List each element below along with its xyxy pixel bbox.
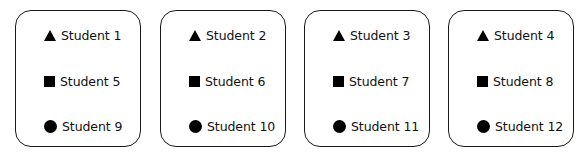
student-label: Student 4 (494, 28, 554, 43)
student-item: Student 9 (44, 118, 122, 134)
student-group-4: Student 4 Student 8 Student 12 (448, 10, 574, 147)
student-item: Student 7 (333, 73, 409, 89)
student-label: Student 12 (495, 119, 563, 134)
circle-icon (333, 120, 346, 133)
student-label: Student 11 (351, 119, 419, 134)
student-label: Student 9 (62, 119, 122, 134)
student-item: Student 2 (189, 27, 266, 43)
square-icon (477, 76, 488, 87)
student-label: Student 10 (207, 119, 275, 134)
student-label: Student 1 (61, 28, 121, 43)
student-item: Student 12 (477, 118, 563, 134)
student-label: Student 8 (493, 74, 553, 89)
student-item: Student 1 (44, 27, 121, 43)
square-icon (44, 76, 55, 87)
circle-icon (44, 120, 57, 133)
circle-icon (189, 120, 202, 133)
student-item: Student 11 (333, 118, 419, 134)
circle-icon (477, 120, 490, 133)
student-group-1: Student 1 Student 5 Student 9 (15, 10, 141, 147)
triangle-icon (189, 30, 201, 41)
triangle-icon (477, 30, 489, 41)
student-item: Student 6 (189, 73, 265, 89)
student-group-2: Student 2 Student 6 Student 10 (160, 10, 286, 147)
square-icon (333, 76, 344, 87)
student-label: Student 3 (350, 28, 410, 43)
triangle-icon (333, 30, 345, 41)
student-item: Student 10 (189, 118, 275, 134)
student-label: Student 6 (205, 74, 265, 89)
student-label: Student 2 (206, 28, 266, 43)
student-item: Student 3 (333, 27, 410, 43)
student-label: Student 5 (60, 74, 120, 89)
student-item: Student 4 (477, 27, 554, 43)
student-item: Student 8 (477, 73, 553, 89)
student-label: Student 7 (349, 74, 409, 89)
student-group-3: Student 3 Student 7 Student 11 (304, 10, 430, 147)
triangle-icon (44, 30, 56, 41)
square-icon (189, 76, 200, 87)
student-item: Student 5 (44, 73, 120, 89)
